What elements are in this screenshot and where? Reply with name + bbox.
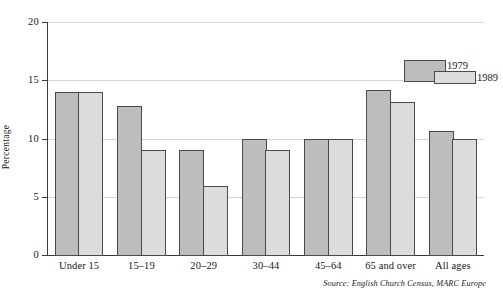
y-tick-15 — [42, 80, 47, 81]
bar-1979-15–19 — [117, 106, 142, 256]
source-note: Source: English Church Census, MARC Euro… — [323, 279, 486, 288]
bar-1989-20–29 — [203, 186, 228, 256]
x-tick-label: 20–29 — [173, 260, 235, 271]
bar-1989-30–44 — [265, 150, 290, 256]
y-tick-label-10: 10 — [28, 134, 39, 145]
bar-1989-15–19 — [141, 150, 166, 256]
y-tick-label-20: 20 — [28, 17, 39, 28]
bar-1979-20–29 — [179, 150, 204, 256]
bar-1979-30–44 — [242, 139, 267, 256]
bar-1979-under-15 — [55, 92, 80, 256]
x-tick-label: 65 and over — [359, 260, 421, 271]
legend-label-1989: 1989 — [477, 73, 498, 84]
bar-1989-under-15 — [78, 92, 103, 256]
y-tick-10 — [42, 139, 47, 140]
x-tick-label: 30–44 — [235, 260, 297, 271]
bar-group: 45–64 — [297, 22, 359, 256]
x-tick-label: 15–19 — [110, 260, 172, 271]
x-tick-label: All ages — [422, 260, 484, 271]
bar-1989-all-ages — [452, 139, 477, 256]
bar-1979-65-and-over — [366, 90, 391, 256]
bar-1989-65-and-over — [390, 102, 415, 256]
bar-group: Under 15 — [48, 22, 110, 256]
bar-1979-all-ages — [429, 131, 454, 256]
plot-area: 20 15 10 5 0 Under 1515–1920–2930–4445–6… — [47, 22, 484, 256]
bar-group: 20–29 — [173, 22, 235, 256]
bar-groups: Under 1515–1920–2930–4445–6465 and overA… — [48, 22, 484, 256]
x-tick-label: 45–64 — [297, 260, 359, 271]
y-tick-0 — [42, 255, 47, 256]
bar-1989-45–64 — [328, 139, 353, 256]
bar-group: 65 and over — [359, 22, 421, 256]
chart-legend: 1979 1989 — [404, 60, 503, 90]
bar-1979-45–64 — [304, 139, 329, 256]
y-tick-5 — [42, 197, 47, 198]
x-tick-label: Under 15 — [48, 260, 110, 271]
bar-group: 30–44 — [235, 22, 297, 256]
legend-swatch-1989 — [434, 71, 476, 84]
bar-group: All ages — [422, 22, 484, 256]
y-tick-label-15: 15 — [28, 75, 39, 86]
bar-group: 15–19 — [110, 22, 172, 256]
legend-label-1979: 1979 — [447, 61, 468, 72]
y-tick-20 — [42, 22, 47, 23]
y-tick-label-0: 0 — [34, 250, 39, 261]
y-axis-title: Percentage — [1, 124, 11, 169]
y-tick-label-5: 5 — [34, 192, 39, 203]
